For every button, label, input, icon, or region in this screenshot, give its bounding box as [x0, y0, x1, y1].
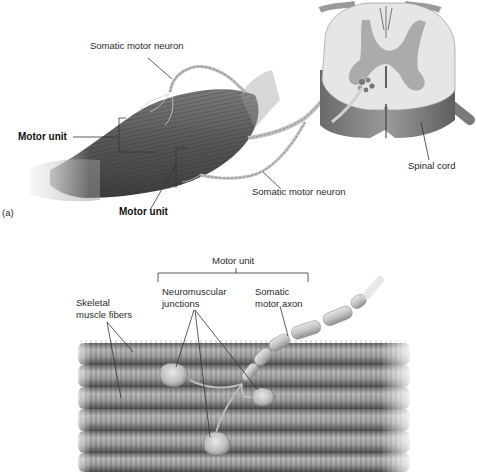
label-skeletal-muscle-fibers: Skeletal muscle fibers	[76, 297, 132, 321]
label-panel-a-tag: (a)	[2, 207, 14, 219]
label-motor-unit-bottom: Motor unit	[119, 206, 168, 218]
label-spinal-cord: Spinal cord	[408, 160, 456, 172]
label-nmj-line1: Neuromuscular	[162, 286, 226, 298]
label-neuromuscular-junctions: Neuromuscular junctions	[162, 286, 226, 310]
spinal-cord	[320, 3, 470, 138]
label-fibers-line2: muscle fibers	[76, 309, 132, 321]
label-motor-unit-left: Motor unit	[18, 131, 67, 143]
label-fibers-line1: Skeletal	[76, 297, 132, 309]
skeletal-muscle-fibers	[70, 340, 415, 472]
label-motor-unit-b: Motor unit	[212, 255, 254, 267]
label-axon-line2: motor axon	[255, 298, 303, 310]
label-somatic-motor-neuron-top: Somatic motor neuron	[90, 40, 183, 52]
motor-unit-diagram	[0, 0, 477, 472]
somatic-motor-neuron-top	[170, 67, 245, 92]
label-nmj-line2: junctions	[162, 298, 226, 310]
label-somatic-motor-axon: Somatic motor axon	[255, 286, 303, 310]
label-axon-line1: Somatic	[255, 286, 303, 298]
label-somatic-motor-neuron-bottom: Somatic motor neuron	[252, 186, 345, 198]
